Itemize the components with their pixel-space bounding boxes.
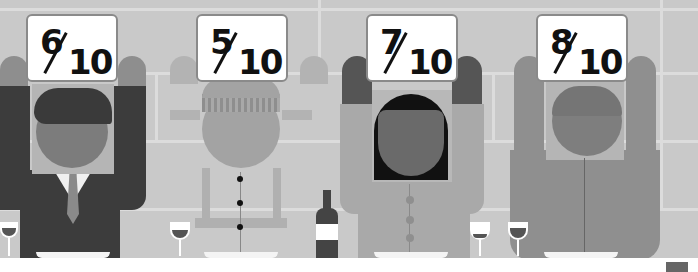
score-max: 10 (68, 42, 111, 82)
zipper (584, 158, 585, 258)
restaurant-scene: 6 10 5 10 7 10 8 10 (0, 0, 698, 272)
button (406, 196, 414, 204)
hair (34, 88, 112, 124)
button (237, 224, 243, 230)
wine-bottle-icon (316, 190, 338, 258)
button (237, 176, 243, 182)
face (378, 110, 444, 176)
score-card-2: 5 10 (196, 14, 288, 82)
wall-line (660, 0, 663, 208)
left-hand (170, 56, 198, 84)
wall-line (155, 75, 158, 140)
jacket-body (510, 150, 660, 260)
wine-glass-icon (508, 222, 528, 258)
wine-glass-icon (0, 222, 18, 258)
arm-stripe (170, 110, 200, 120)
chair-corner (666, 262, 688, 272)
wine-glass-icon (170, 222, 190, 258)
right-hand (300, 56, 328, 84)
button (406, 234, 414, 242)
score-max: 10 (408, 42, 451, 82)
score-card-1: 6 10 (26, 14, 118, 82)
score-max: 10 (578, 42, 621, 82)
jacket-strap (273, 168, 281, 223)
wall-line (492, 75, 495, 140)
score-max: 10 (238, 42, 281, 82)
zip-line (240, 172, 241, 252)
button (406, 216, 414, 224)
table-top (0, 258, 698, 272)
jacket-strap (202, 168, 210, 223)
button (237, 200, 243, 206)
wine-glass-icon (470, 222, 490, 258)
arm-stripe (282, 110, 312, 120)
cardigan-body (358, 180, 470, 260)
score-card-4: 8 10 (536, 14, 628, 82)
wall-line (0, 8, 698, 11)
score-card-3: 7 10 (366, 14, 458, 82)
